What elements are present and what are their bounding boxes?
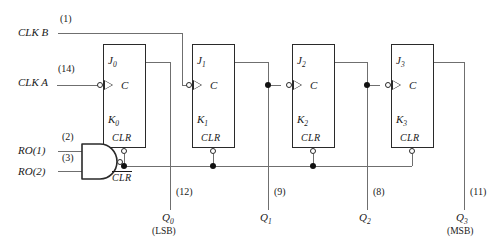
junction-dot-clr-ff2 xyxy=(310,163,316,169)
junction-dot-clr-ff1 xyxy=(210,163,216,169)
output-label-q1: Q1 xyxy=(260,211,272,226)
junction-dot-clr-ff0 xyxy=(121,163,127,169)
pin-label-q2: (8) xyxy=(373,186,385,197)
pin-label-q1: (9) xyxy=(274,186,286,197)
output-note-q3: (MSB) xyxy=(447,226,473,236)
pin-label-q0: (12) xyxy=(176,186,193,197)
pin-label-q3: (11) xyxy=(470,186,486,197)
output-note-q0: (LSB) xyxy=(152,226,176,236)
clr-bus-label: CLR xyxy=(112,171,132,183)
logic-diagram-canvas: CLK B (1) CLK A (14) RO(1) (2) RO(2) (3)… xyxy=(0,0,500,245)
output-label-q3: Q3 xyxy=(456,211,468,226)
output-label-q0: Q0 xyxy=(162,211,174,226)
wire-clr-bus xyxy=(123,166,412,167)
output-label-q2: Q2 xyxy=(359,211,371,226)
nand-gate-icon xyxy=(0,0,500,245)
